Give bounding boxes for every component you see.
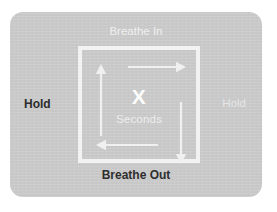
arrow-left-icon — [96, 138, 158, 152]
label-hold-right: Hold — [222, 98, 246, 110]
breathing-square: X Seconds — [78, 46, 200, 163]
arrow-up-icon — [94, 64, 108, 136]
label-hold-left: Hold — [24, 98, 51, 110]
arrow-right-icon — [128, 60, 186, 74]
arrow-down-icon — [174, 102, 188, 164]
label-breathe-out: Breathe Out — [10, 169, 262, 181]
diagram-card: Breathe In Hold Hold Breathe Out — [10, 12, 262, 197]
breathing-diagram-canvas: Breathe In Hold Hold Breathe Out — [0, 0, 277, 212]
label-breathe-in: Breathe In — [10, 26, 262, 38]
